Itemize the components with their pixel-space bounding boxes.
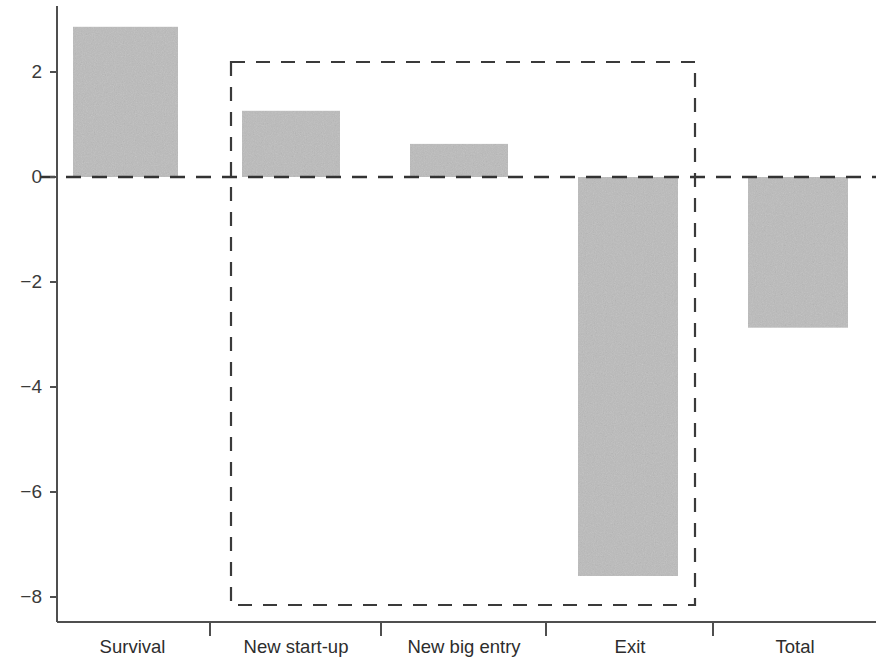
x-tick-label-new-start-up: New start-up (212, 638, 380, 657)
y-tick-label-minus-6: −6 (0, 482, 42, 501)
bar-chart: 2 0 −2 −4 −6 −8 Survival New start-up Ne… (0, 0, 876, 663)
x-tick-label-new-big-entry: New big entry (383, 638, 545, 657)
bar-total (748, 177, 848, 328)
y-axis-ticks (50, 72, 57, 597)
x-tick-label-total: Total (715, 638, 875, 657)
y-tick-label-minus-8: −8 (0, 587, 42, 606)
x-axis-ticks (210, 622, 713, 636)
chart-canvas (0, 0, 876, 663)
bar-new-big-entry (410, 144, 508, 177)
bar-exit (578, 177, 678, 576)
plot-area: 2 0 −2 −4 −6 −8 Survival New start-up Ne… (0, 0, 876, 663)
y-tick-label-0: 0 (0, 167, 42, 186)
x-tick-label-survival: Survival (55, 638, 210, 657)
y-tick-label-minus-2: −2 (0, 272, 42, 291)
bar-new-start-up (242, 111, 340, 177)
y-tick-label-2: 2 (0, 62, 42, 81)
bar-survival (73, 27, 178, 177)
x-tick-label-exit: Exit (548, 638, 712, 657)
y-tick-label-minus-4: −4 (0, 377, 42, 396)
